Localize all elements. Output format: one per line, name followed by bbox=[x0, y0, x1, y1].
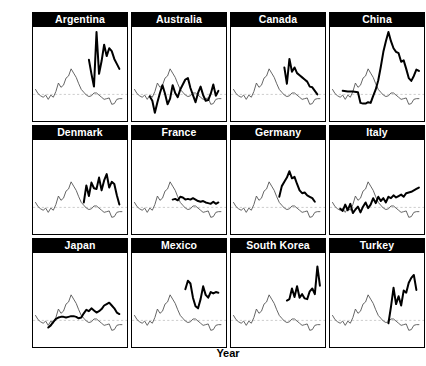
plot-area: −50050100150 bbox=[32, 27, 128, 122]
y-tick-mark bbox=[32, 225, 33, 226]
plot-area bbox=[230, 140, 326, 235]
series-line-reference bbox=[36, 295, 122, 330]
facet-strip-label: Germany bbox=[230, 125, 326, 140]
plot-area: −50050100150 bbox=[32, 140, 128, 235]
facet-panel: South Korea1990200020102020 bbox=[230, 238, 326, 348]
series-line-reference bbox=[135, 295, 221, 330]
series-line-country bbox=[284, 59, 317, 94]
facet-panel: Argentina−50050100150 bbox=[32, 12, 128, 122]
x-tick-mark bbox=[150, 347, 151, 348]
y-tick-mark bbox=[32, 320, 33, 321]
facet-panel: Canada bbox=[230, 12, 326, 122]
x-tick-group: 1990200020102020 bbox=[231, 347, 325, 348]
facet-panel: Mexico1990200020102020 bbox=[131, 238, 227, 348]
x-tick-mark bbox=[424, 347, 425, 348]
x-tick-group: 1990200020102020 bbox=[330, 347, 424, 348]
y-tick-mark bbox=[32, 284, 33, 285]
y-axis-title: pct. change, 10 year bbox=[0, 0, 15, 16]
facet-strip-label: China bbox=[329, 12, 425, 27]
plot-area: 1990200020102020 bbox=[230, 253, 326, 348]
facet-strip-label: Japan bbox=[32, 238, 128, 253]
facet-panel: Japan−500501001501990200020102020 bbox=[32, 238, 128, 348]
facet-strip-label: Denmark bbox=[32, 125, 128, 140]
x-tick-mark bbox=[51, 347, 52, 348]
plot-area bbox=[329, 140, 425, 235]
facet-strip-label: Argentina bbox=[32, 12, 128, 27]
plot-area: −500501001501990200020102020 bbox=[32, 253, 128, 348]
series-line-reference bbox=[234, 295, 320, 330]
x-tick-mark bbox=[201, 347, 202, 348]
y-tick-mark bbox=[32, 338, 33, 339]
facet-strip-label: France bbox=[131, 125, 227, 140]
facet-grid: Argentina−50050100150AustraliaCanadaChin… bbox=[32, 12, 425, 334]
facet-panel: Denmark−50050100150 bbox=[32, 125, 128, 235]
y-tick-mark bbox=[32, 267, 33, 268]
series-line-country bbox=[279, 171, 315, 202]
y-tick-mark bbox=[32, 171, 33, 172]
x-tick-mark bbox=[102, 347, 103, 348]
series-line-country bbox=[150, 78, 219, 113]
y-tick-mark bbox=[32, 112, 33, 113]
y-tick-mark bbox=[32, 207, 33, 208]
series-line-reference bbox=[234, 182, 320, 217]
facet-strip-label: Italy bbox=[329, 125, 425, 140]
x-tick-mark bbox=[175, 347, 176, 348]
plot-area bbox=[329, 27, 425, 122]
x-tick-mark bbox=[373, 347, 374, 348]
series-line-reference bbox=[234, 69, 320, 104]
series-line-reference bbox=[36, 69, 122, 104]
y-tick-mark bbox=[32, 302, 33, 303]
series-line-country bbox=[287, 266, 320, 300]
facet-strip-label: Mexico bbox=[131, 238, 227, 253]
y-tick-mark bbox=[32, 41, 33, 42]
plot-area bbox=[230, 27, 326, 122]
series-line-country bbox=[185, 281, 218, 309]
x-tick-mark bbox=[127, 347, 128, 348]
facet-panel: China bbox=[329, 12, 425, 122]
facet-panel: Germany bbox=[230, 125, 326, 235]
series-line-reference bbox=[333, 295, 419, 330]
x-tick-mark bbox=[399, 347, 400, 348]
facet-panel: Italy bbox=[329, 125, 425, 235]
plot-area: 1990200020102020 bbox=[131, 253, 227, 348]
series-line-country bbox=[340, 188, 419, 214]
x-tick-mark bbox=[226, 347, 227, 348]
series-line-country bbox=[388, 275, 416, 323]
x-tick-group: 1990200020102020 bbox=[33, 347, 127, 348]
series-line-country bbox=[89, 32, 119, 87]
y-tick-mark bbox=[32, 76, 33, 77]
facet-panel: Australia bbox=[131, 12, 227, 122]
x-tick-mark bbox=[325, 347, 326, 348]
facet-strip-label: Turkey bbox=[329, 238, 425, 253]
facet-strip-label: South Korea bbox=[230, 238, 326, 253]
x-tick-mark bbox=[76, 347, 77, 348]
facet-panel: Turkey1990200020102020 bbox=[329, 238, 425, 348]
x-axis-title: Year bbox=[30, 347, 426, 363]
y-tick-mark bbox=[32, 58, 33, 59]
x-tick-mark bbox=[348, 347, 349, 348]
faceted-line-chart: pct. change, 10 year Year Argentina−5005… bbox=[0, 0, 426, 366]
plot-area: 1990200020102020 bbox=[329, 253, 425, 348]
facet-strip-label: Australia bbox=[131, 12, 227, 27]
y-tick-mark bbox=[32, 154, 33, 155]
y-tick-mark bbox=[32, 94, 33, 95]
y-tick-mark bbox=[32, 189, 33, 190]
x-tick-group: 1990200020102020 bbox=[132, 347, 226, 348]
facet-strip-label: Canada bbox=[230, 12, 326, 27]
series-line-country bbox=[84, 174, 120, 205]
x-tick-mark bbox=[274, 347, 275, 348]
series-line-reference bbox=[333, 182, 419, 217]
plot-area bbox=[131, 140, 227, 235]
plot-area bbox=[131, 27, 227, 122]
x-tick-mark bbox=[300, 347, 301, 348]
facet-panel: France bbox=[131, 125, 227, 235]
x-tick-mark bbox=[249, 347, 250, 348]
